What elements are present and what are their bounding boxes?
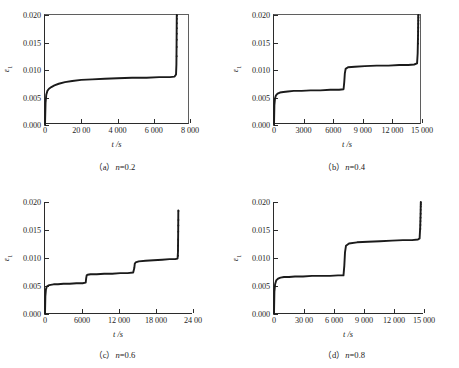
y-axis-tick-label: 0.010 [23, 254, 41, 263]
data-series-layer [45, 202, 207, 318]
panel-caption: （c）n=0.6 [0, 348, 229, 360]
failure-scatter-point [176, 15, 178, 17]
y-axis-tick-label: 0.000 [23, 121, 41, 130]
panel-caption: （b）n=0.4 [229, 160, 459, 172]
failure-scatter-point [176, 18, 178, 20]
failure-scatter-point [417, 23, 419, 25]
y-axis-tick-label: 0.005 [23, 282, 41, 291]
failure-scatter-point [176, 22, 178, 24]
failure-scatter-point [420, 202, 422, 204]
panel-caption: （d）n=0.8 [229, 348, 459, 360]
failure-scatter-point [176, 46, 178, 48]
y-axis-tick-label: 0.005 [23, 93, 41, 102]
y-axis-tick-label: 0.010 [252, 66, 270, 75]
axes-frame: 0.0000.0050.0100.0150.0200600012 00018 0… [44, 202, 192, 314]
creep-strain-curve [45, 210, 178, 314]
y-axis-tick-label: 0.020 [252, 198, 270, 207]
y-axis-tick-label: 0.015 [23, 38, 41, 47]
failure-scatter-point [176, 55, 178, 57]
failure-scatter-point [176, 33, 178, 35]
y-axis-tick-label: 0.015 [252, 226, 270, 235]
failure-scatter-point [177, 255, 179, 257]
creep-strain-curve [274, 15, 418, 125]
x-axis-title: t /s [343, 330, 353, 339]
y-axis-tick-label: 0.010 [23, 66, 41, 75]
panel-caption: （a）n=0.2 [0, 160, 229, 172]
chart-panel-c: 0.0000.0050.0100.0150.0200600012 00018 0… [0, 184, 229, 368]
failure-scatter-point [178, 210, 180, 212]
y-axis-tick-label: 0.015 [23, 226, 41, 235]
failure-scatter-point [417, 31, 419, 33]
data-series-layer [274, 202, 438, 318]
chart-panel-b: 0.0000.0050.0100.0150.0200300060009 0001… [229, 0, 459, 184]
failure-scatter-point [420, 203, 422, 205]
failure-scatter-point [418, 17, 420, 19]
y-axis-tick-label: 0.000 [252, 121, 270, 130]
failure-scatter-point [420, 213, 422, 215]
y-axis-tick-label: 0.010 [252, 254, 270, 263]
y-axis-tick-label: 0.020 [252, 11, 270, 20]
failure-scatter-point [417, 34, 419, 36]
failure-scatter-point [417, 43, 419, 45]
y-axis-tick-label: 0.000 [23, 310, 41, 319]
y-axis-title: ε1 [230, 66, 242, 72]
x-axis-title: t /s [111, 140, 121, 149]
y-axis-tick-label: 0.020 [23, 198, 41, 207]
axes-frame: 0.0000.0050.0100.0150.0200300060009 0001… [273, 14, 421, 124]
failure-scatter-point [418, 15, 420, 17]
failure-scatter-point [176, 27, 178, 29]
failure-scatter-point [420, 224, 422, 226]
failure-scatter-point [177, 239, 179, 241]
data-series-layer [274, 15, 436, 129]
x-axis-title: t /s [342, 140, 352, 149]
y-axis-tick-label: 0.020 [23, 11, 41, 20]
failure-scatter-point [420, 206, 422, 208]
creep-strain-curve [45, 15, 177, 125]
y-axis-tick-label: 0.005 [252, 93, 270, 102]
failure-scatter-point [420, 220, 422, 222]
y-axis-tick-label: 0.005 [252, 282, 270, 291]
failure-scatter-point [420, 217, 422, 219]
y-axis-title: ε1 [230, 255, 242, 261]
chart-panel-d: 0.0000.0050.0100.0150.020030 006 0009 00… [229, 184, 459, 368]
creep-strain-figure: 0.0000.0050.0100.0150.020020 004 0006 00… [0, 0, 459, 368]
chart-panel-a: 0.0000.0050.0100.0150.020020 004 0006 00… [0, 0, 229, 184]
x-axis-title: t /s [113, 330, 123, 339]
failure-scatter-point [420, 228, 422, 230]
failure-scatter-point [177, 225, 179, 227]
axes-frame: 0.0000.0050.0100.0150.020020 004 0006 00… [44, 14, 189, 124]
y-axis-title: ε1 [1, 66, 13, 72]
y-axis-title: ε1 [1, 255, 13, 261]
failure-scatter-point [178, 219, 180, 221]
data-series-layer [45, 15, 204, 129]
creep-strain-curve [274, 202, 421, 314]
y-axis-tick-label: 0.015 [252, 38, 270, 47]
y-axis-tick-label: 0.000 [252, 310, 270, 319]
failure-scatter-point [418, 20, 420, 22]
failure-scatter-point [420, 209, 422, 211]
failure-scatter-point [177, 245, 179, 247]
axes-frame: 0.0000.0050.0100.0150.020030 006 0009 00… [273, 202, 423, 314]
failure-scatter-point [417, 27, 419, 29]
failure-scatter-point [417, 38, 419, 40]
failure-scatter-point [177, 231, 179, 233]
failure-scatter-point [177, 250, 179, 252]
failure-scatter-point [176, 39, 178, 41]
